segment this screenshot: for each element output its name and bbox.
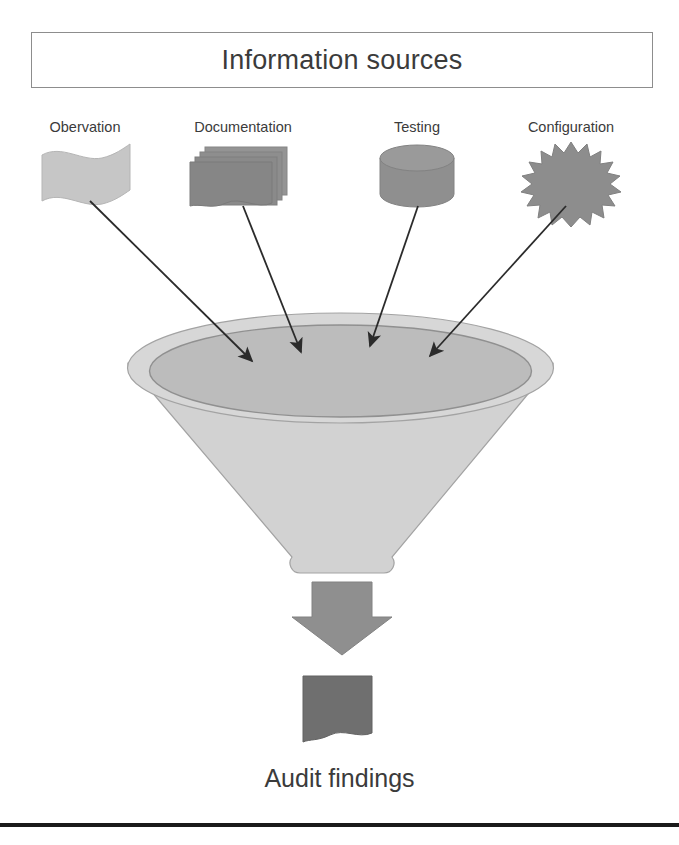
document-stack-icon	[190, 147, 287, 206]
diagram-canvas	[0, 0, 679, 845]
database-cylinder-icon	[380, 145, 454, 207]
flag-banner-icon	[42, 144, 130, 205]
starburst-icon	[521, 142, 621, 227]
funnel-output-arrow	[292, 582, 392, 655]
audit-findings-caption: Audit findings	[0, 764, 679, 793]
funnel-shape	[128, 313, 554, 573]
audit-findings-document-icon	[303, 676, 372, 742]
footer-divider	[0, 823, 679, 827]
